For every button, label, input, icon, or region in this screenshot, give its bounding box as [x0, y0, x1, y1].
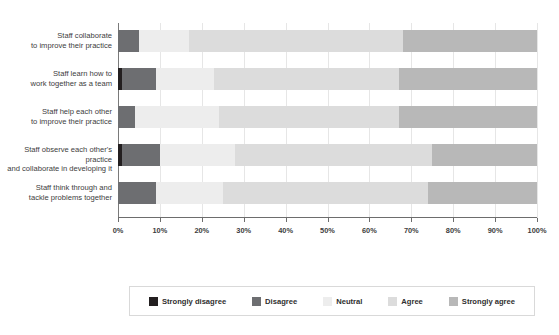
stacked-bar-chart: Staff collaborateto improve their practi… [0, 0, 559, 335]
legend-item[interactable]: Strongly agree [449, 297, 515, 306]
legend-item[interactable]: Disagree [252, 297, 297, 306]
x-axis-tick [286, 218, 287, 222]
x-axis-tick [202, 218, 203, 222]
category-label: Staff think through andtackle problems t… [0, 183, 112, 202]
legend-swatch-icon [388, 297, 397, 306]
legend-label: Agree [401, 297, 423, 306]
x-tick-label: 80% [433, 226, 473, 235]
x-axis-tick [328, 218, 329, 222]
bar-segment [135, 106, 219, 128]
x-axis-tick [244, 218, 245, 222]
legend-item[interactable]: Strongly disagree [149, 297, 226, 306]
legend-swatch-icon [449, 297, 458, 306]
bar-segment [432, 144, 537, 166]
bar-segment [118, 106, 135, 128]
legend-label: Strongly agree [462, 297, 515, 306]
x-axis-tick [495, 218, 496, 222]
bar-segment [122, 68, 156, 90]
x-tick-label: 30% [224, 226, 264, 235]
x-axis-tick [369, 218, 370, 222]
category-label-line: Staff think through and [0, 183, 112, 193]
category-label-line: Staff help each other [0, 107, 112, 117]
category-label-line: Staff collaborate [0, 31, 112, 41]
legend-swatch-icon [252, 297, 261, 306]
category-label: Staff learn how towork together as a tea… [0, 69, 112, 88]
x-tick-label: 20% [182, 226, 222, 235]
bar-segment [219, 106, 399, 128]
x-axis-tick [118, 218, 119, 222]
category-label-line: tackle problems together [0, 193, 112, 203]
x-tick-label: 70% [391, 226, 431, 235]
x-tick-label: 100% [517, 226, 557, 235]
category-label: Staff observe each other's practiceand c… [0, 145, 112, 174]
category-label-line: and collaborate in developing it [0, 164, 112, 174]
bar-row [118, 30, 537, 52]
bar-segment [156, 68, 215, 90]
x-tick-label: 90% [475, 226, 515, 235]
bar-segment [428, 182, 537, 204]
legend-label: Strongly disagree [162, 297, 226, 306]
category-label-line: to improve their practice [0, 41, 112, 51]
bar-segment [223, 182, 428, 204]
x-axis-tick [160, 218, 161, 222]
x-tick-label: 50% [308, 226, 348, 235]
bar-segment [235, 144, 432, 166]
category-label: Staff help each otherto improve their pr… [0, 107, 112, 126]
category-label: Staff collaborateto improve their practi… [0, 31, 112, 50]
legend-swatch-icon [149, 297, 158, 306]
bar-segment [156, 182, 223, 204]
gridline [537, 23, 538, 218]
x-tick-label: 10% [140, 226, 180, 235]
legend-item[interactable]: Agree [388, 297, 423, 306]
category-label-line: Staff observe each other's practice [0, 145, 112, 164]
bar-segment [122, 144, 160, 166]
bar-segment [214, 68, 398, 90]
bar-segment [399, 68, 537, 90]
x-axis-tick [411, 218, 412, 222]
bar-row [118, 68, 537, 90]
legend-item[interactable]: Neutral [323, 297, 362, 306]
x-tick-label: 60% [349, 226, 389, 235]
bar-row [118, 144, 537, 166]
chart-legend: Strongly disagreeDisagreeNeutralAgreeStr… [129, 286, 535, 316]
legend-swatch-icon [323, 297, 332, 306]
category-label-line: to improve their practice [0, 117, 112, 127]
bar-segment [189, 30, 403, 52]
legend-label: Neutral [336, 297, 362, 306]
x-axis-tick [453, 218, 454, 222]
bar-segment [399, 106, 537, 128]
bar-row [118, 182, 537, 204]
category-label-line: Staff learn how to [0, 69, 112, 79]
bar-row [118, 106, 537, 128]
category-label-line: work together as a team [0, 79, 112, 89]
x-axis-tick [537, 218, 538, 222]
legend-label: Disagree [265, 297, 297, 306]
bar-segment [139, 30, 189, 52]
bar-segment [403, 30, 537, 52]
x-tick-label: 0% [98, 226, 138, 235]
bar-segment [118, 182, 156, 204]
bar-segment [118, 30, 139, 52]
x-tick-label: 40% [266, 226, 306, 235]
plot-area [118, 23, 537, 218]
bar-segment [160, 144, 235, 166]
